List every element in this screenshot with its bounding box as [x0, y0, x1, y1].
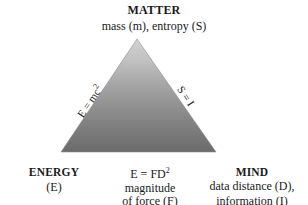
mind-title: MIND [196, 166, 308, 179]
vertex-label-mind: MIND data distance (D), information (I) [196, 166, 308, 205]
vertex-label-matter: MATTER mass (m), entropy (S) [0, 4, 308, 33]
mind-subtitle-line1: data distance (D), [196, 180, 308, 194]
energy-title: ENERGY [2, 166, 106, 179]
vertex-label-energy: ENERGY (E) [2, 166, 106, 195]
matter-subtitle: mass (m), entropy (S) [0, 20, 308, 34]
mind-subtitle-line2: information (I) [196, 195, 308, 205]
force-caption-line2: of force (F) [96, 195, 204, 205]
triangle-diagram-canvas: MATTER mass (m), entropy (S) E = mc2 S =… [0, 0, 308, 205]
force-caption-line1: magnitude [96, 182, 204, 196]
force-equation-exponent: 2 [166, 166, 170, 175]
bottom-edge-label: E = FD2 magnitude of force (F) [96, 166, 204, 205]
force-equation: E = FD2 [96, 166, 204, 182]
matter-title: MATTER [0, 4, 308, 18]
force-equation-base: E = FD [130, 167, 165, 181]
energy-subtitle: (E) [2, 181, 106, 195]
